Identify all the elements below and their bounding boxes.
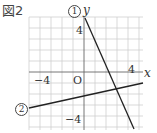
x-tick-neg4: −4	[34, 75, 50, 86]
figure-title: 図2	[2, 4, 23, 17]
origin-label: O	[73, 75, 82, 86]
line-1-label: 1	[68, 5, 81, 18]
y-axis-label: y	[83, 4, 90, 16]
y-tick-neg4: −4	[65, 114, 81, 125]
x-axis-label: x	[144, 67, 151, 79]
line-2-label: 2	[15, 103, 28, 116]
y-tick-4: 4	[76, 25, 83, 36]
x-tick-4: 4	[128, 64, 135, 75]
line-1	[85, 18, 134, 129]
